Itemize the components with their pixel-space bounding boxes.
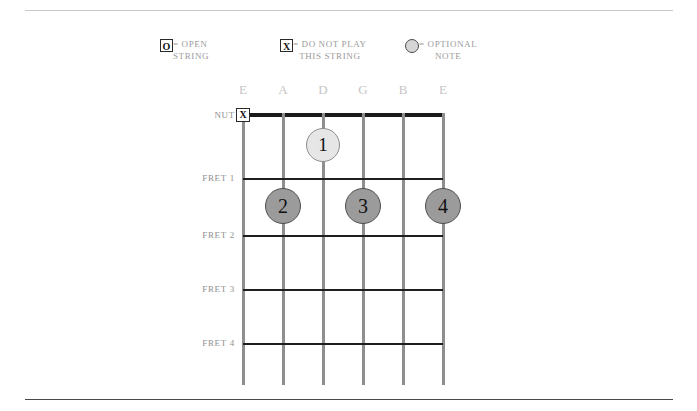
fret-label-3: FRET 3 bbox=[202, 284, 235, 295]
fret-line-1 bbox=[243, 178, 443, 180]
legend: O = OPEN STRING X = DO NOT PLAY THIS STR… bbox=[160, 38, 530, 72]
legend-do-not-play-line1: = DO NOT PLAY bbox=[293, 38, 367, 50]
string-label-3: D bbox=[313, 82, 333, 98]
legend-open-string-line1: = OPEN bbox=[173, 38, 209, 50]
finger-marker-1: 1 bbox=[306, 128, 340, 162]
legend-optional-note-text: = OPTIONAL NOTE bbox=[419, 38, 477, 62]
finger-marker-3: 3 bbox=[345, 188, 381, 224]
fret-line-4 bbox=[243, 343, 443, 345]
legend-optional-note-line1: = OPTIONAL bbox=[419, 38, 477, 50]
legend-optional-note-line2: NOTE bbox=[419, 50, 477, 62]
legend-item-optional-note: = OPTIONAL NOTE bbox=[405, 38, 477, 62]
string-label-2: A bbox=[273, 82, 293, 98]
fret-label-1: FRET 1 bbox=[202, 173, 235, 184]
nut-label: NUT bbox=[214, 110, 235, 121]
fret-label-2: FRET 2 bbox=[202, 230, 235, 241]
nut-bar bbox=[243, 113, 443, 117]
string-label-6: E bbox=[433, 82, 453, 98]
legend-open-string-text: = OPEN STRING bbox=[173, 38, 209, 62]
fretboard: X1234 bbox=[243, 113, 443, 385]
legend-item-do-not-play: X = DO NOT PLAY THIS STRING bbox=[280, 38, 367, 62]
legend-open-string-line2: STRING bbox=[173, 50, 209, 62]
finger-marker-4: 4 bbox=[425, 188, 461, 224]
legend-do-not-play-text: = DO NOT PLAY THIS STRING bbox=[293, 38, 367, 62]
fret-line-2 bbox=[243, 235, 443, 237]
open-string-icon: O bbox=[160, 39, 173, 52]
do-not-play-marker-string-1: X bbox=[236, 108, 250, 122]
optional-note-icon bbox=[405, 39, 419, 53]
string-label-1: E bbox=[233, 82, 253, 98]
legend-item-open-string: O = OPEN STRING bbox=[160, 38, 209, 62]
fret-label-column: NUTFRET 1FRET 2FRET 3FRET 4 bbox=[140, 110, 235, 360]
finger-marker-2: 2 bbox=[265, 188, 301, 224]
bottom-divider bbox=[25, 399, 673, 400]
string-label-row: EADGBE bbox=[243, 82, 443, 100]
fret-label-4: FRET 4 bbox=[202, 338, 235, 349]
fret-line-3 bbox=[243, 289, 443, 291]
string-label-5: B bbox=[393, 82, 413, 98]
do-not-play-icon: X bbox=[280, 39, 293, 52]
legend-do-not-play-line2: THIS STRING bbox=[293, 50, 367, 62]
string-label-4: G bbox=[353, 82, 373, 98]
top-divider bbox=[25, 10, 673, 11]
